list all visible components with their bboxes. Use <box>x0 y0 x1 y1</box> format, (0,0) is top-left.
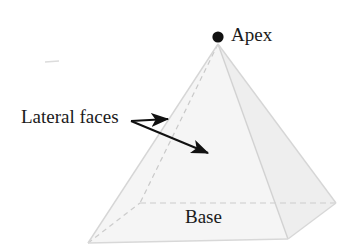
lateral-faces-label: Lateral faces <box>21 107 119 126</box>
apex-label: Apex <box>231 25 272 44</box>
base-label: Base <box>185 207 222 226</box>
faint-stray-mark <box>45 61 59 62</box>
apex-dot-icon <box>212 31 223 42</box>
